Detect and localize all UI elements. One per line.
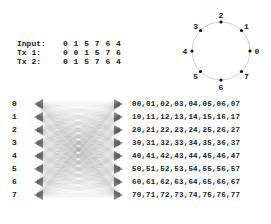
ring-node: [219, 20, 222, 23]
ring-node-label: 4: [183, 47, 188, 56]
matrix-row: 20,21,22,23,24,25,26,27: [132, 125, 240, 135]
row-label: 1: [12, 112, 22, 122]
ring-node: [219, 78, 222, 81]
ring-node: [199, 70, 202, 73]
mesh-left-node: [34, 151, 43, 161]
mesh-left-node: [34, 138, 43, 148]
ring-node: [248, 49, 251, 52]
row-label: 6: [12, 177, 22, 187]
matrix-row: 30,31,32,33,34,35,36,37: [132, 138, 240, 148]
row-label: 4: [12, 151, 22, 161]
ring-node-label: 3: [193, 22, 198, 31]
matrix-row: 10,11,12,13,14,15,16,17: [132, 112, 240, 122]
ring-node-label: 5: [193, 72, 198, 81]
row-label: 5: [12, 164, 22, 174]
row-label: 0: [12, 99, 22, 109]
row-label: 2: [12, 125, 22, 135]
mesh-network: [34, 99, 123, 200]
ring-node-label: 6: [219, 83, 224, 92]
ring-node-label: 2: [219, 11, 224, 20]
row-label: 3: [12, 138, 22, 148]
ring-node-label: 1: [244, 22, 249, 31]
matrix-row: 00,01,02,03,04,05,06,07: [132, 99, 240, 109]
ring-node-label: 7: [244, 72, 249, 81]
ring-node: [240, 29, 243, 32]
matrix-row: 50,51,52,53,54,55,56,57: [132, 164, 240, 174]
ring-diagram: 01234567: [183, 11, 260, 92]
matrix-row: 60,61,62,63,64,65,66,67: [132, 177, 240, 187]
matrix-row: 40,41,42,43,44,45,46,47: [132, 151, 240, 161]
ring-node-label: 0: [255, 47, 260, 56]
ring-node: [199, 29, 202, 32]
row-label: 7: [12, 190, 22, 200]
matrix-row: 70,71,72,73,74,75,76,77: [132, 190, 240, 200]
ring-node: [190, 49, 193, 52]
ring-node: [240, 70, 243, 73]
